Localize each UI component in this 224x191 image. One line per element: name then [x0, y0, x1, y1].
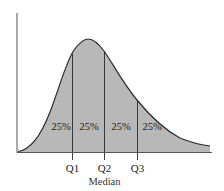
q1-label: Q1	[66, 162, 79, 174]
skewed-distribution-chart: 25% 25% 25% 25% Q1 Q2 Q3 Median	[0, 0, 224, 191]
region-2-label: 25%	[79, 121, 99, 132]
region-1-label: 25%	[51, 121, 71, 132]
median-label: Median	[88, 176, 121, 187]
q3-label: Q3	[131, 162, 145, 174]
region-3-label: 25%	[111, 121, 131, 132]
q2-label: Q2	[98, 162, 111, 174]
distribution-area	[18, 39, 210, 152]
region-4-label: 25%	[142, 121, 162, 132]
